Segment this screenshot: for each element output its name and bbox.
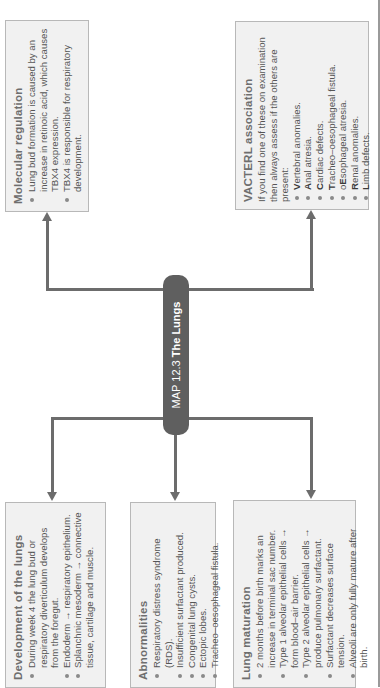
list-item: Type 2 alveolar epithelial cells → produ… — [300, 507, 323, 680]
list-item: TBX4 is responsible for respiratory deve… — [61, 27, 84, 204]
box-vacterl-association: VACTERL association If you find one of t… — [235, 21, 369, 210]
connector-to-vacterl — [310, 217, 313, 291]
list-item: Vertebral anomalies. — [291, 28, 303, 202]
map-number-label: MAP 12.3 — [170, 357, 182, 408]
list-item: Renal anomalies. — [349, 28, 361, 202]
box-development-of-the-lungs: Development of the lungs During week 4 t… — [5, 502, 106, 688]
box-heading: Molecular regulation — [12, 27, 25, 204]
list-item: Type 1 alveolar epithelial cells → form … — [277, 507, 300, 680]
list-item: oEsophageal atresia. — [337, 28, 349, 202]
list-item: Tracheo–oesophageal fistula. — [326, 28, 338, 202]
arrow-to-maturation — [306, 490, 316, 499]
list-item: Tracheo–oesophageal fistula. — [209, 509, 221, 680]
box-heading: Abnormalities — [137, 509, 150, 680]
central-topic-pill: MAP 12.3 The Lungs — [163, 275, 189, 435]
connector-to-abnormalities — [174, 433, 177, 493]
box-intro: If you find one of these on examination … — [256, 28, 291, 202]
connector-to-molecular — [46, 219, 49, 291]
box-heading: Lung maturation — [240, 507, 253, 680]
list-item: Respiratory distress syndrome (RDS). — [151, 509, 174, 680]
list-item: Splanchnic mesoderm → connective tissue,… — [72, 509, 95, 680]
box-heading: Development of the lungs — [12, 509, 25, 680]
box-heading: VACTERL association — [242, 28, 255, 202]
list-item: Lung bud formation is caused by an incre… — [26, 27, 61, 204]
list-item: Surfactant decreases surface tension. — [324, 507, 347, 680]
box-abnormalities: Abnormalities Respiratory distress syndr… — [130, 502, 216, 688]
arrow-to-vacterl — [306, 210, 316, 219]
arrow-to-development — [47, 492, 57, 501]
connector-to-development — [51, 417, 54, 493]
list-item: 2 months before birth marks an increase … — [254, 507, 277, 680]
list-item: Anal atresia. — [302, 28, 314, 202]
arrow-to-abnormalities — [170, 492, 180, 501]
box-molecular-regulation: Molecular regulation Lung bud formation … — [5, 20, 89, 212]
list-item: Endoderm → respiratory epithelium. — [61, 509, 73, 680]
list-item: Limb defects. — [360, 28, 372, 202]
connector-to-maturation — [310, 417, 313, 491]
list-item: Congenital lung cysts. — [186, 509, 198, 680]
list-item: Insufficient surfactant produced. — [174, 509, 186, 680]
list-item: Ectopic lobes. — [197, 509, 209, 680]
central-topic-title: The Lungs — [170, 302, 182, 358]
box-lung-maturation: Lung maturation 2 months before birth ma… — [233, 500, 356, 688]
list-item: Alveoli are only fully mature after birt… — [347, 507, 370, 680]
list-item: Cardiac defects. — [314, 28, 326, 202]
list-item: During week 4 the lung bud or respirator… — [26, 509, 61, 680]
arrow-to-molecular — [42, 212, 52, 221]
